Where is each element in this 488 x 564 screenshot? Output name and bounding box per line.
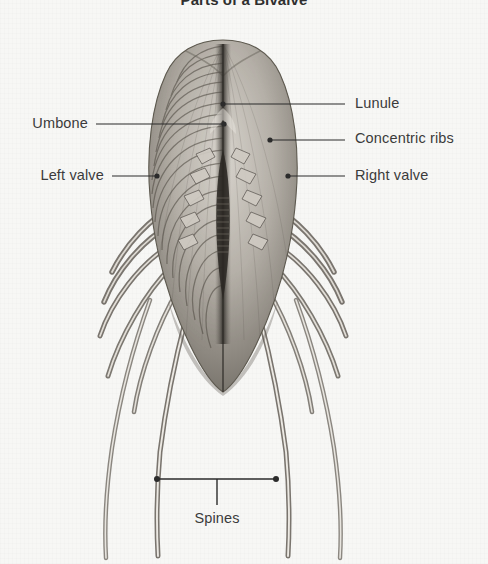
figure-canvas: Parts of a Bivalve (0, 0, 488, 564)
label-spines: Spines (194, 510, 239, 526)
bivalve-illustration (0, 0, 488, 564)
label-lunule: Lunule (355, 95, 399, 111)
label-umbone: Umbone (0, 115, 88, 131)
label-left-valve: Left valve (0, 167, 104, 183)
label-concentric-ribs: Concentric ribs (355, 130, 454, 146)
label-right-valve: Right valve (355, 167, 428, 183)
